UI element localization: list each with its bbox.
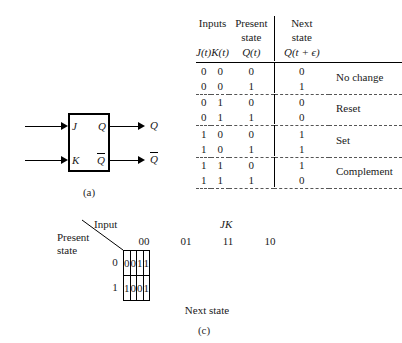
cell-j: 0 [196, 78, 211, 93]
cell-next-q: 1 [274, 78, 329, 93]
kmap-column-header-01: 01 [165, 235, 207, 247]
table-column-header-row: J(t) K(t) Q(t) Q(t + ϵ) [196, 44, 402, 61]
panel-b-truth-table: Inputs Present Next state state J(t) K(t… [196, 16, 402, 189]
caption-c: (c) [175, 324, 233, 336]
group-note: No change [329, 63, 402, 93]
cell-q: 1 [229, 172, 274, 187]
kmap-cell-0-10: 1 [143, 251, 150, 276]
cell-j: 1 [196, 172, 211, 187]
external-label-qbar: Q [150, 154, 158, 165]
kmap-present-state-label: Present state [57, 231, 105, 256]
cell-k: 1 [211, 109, 229, 124]
cell-next-q: 0 [274, 94, 329, 109]
pin-label-qbar-text: Q [97, 155, 105, 166]
pin-label-q: Q [98, 121, 106, 132]
table-row: 1 1 0 1 Complement [196, 157, 402, 172]
kmap-next-state-label: Next state [123, 304, 291, 316]
kmap-column-header-00: 00 [123, 235, 165, 247]
table-row: 1 0 0 1 Set [196, 126, 402, 141]
header-note-spacer-2 [329, 30, 402, 44]
kmap-present-state-line2: state [57, 244, 105, 257]
output-arrow-qbar-icon [138, 156, 145, 164]
pin-label-k: K [72, 155, 79, 166]
cell-k: 1 [211, 172, 229, 187]
header-next-state-line1: Next [274, 16, 329, 30]
header-next-state-line2: state [274, 30, 329, 44]
kmap-row-1: 1 0 0 1 [124, 276, 150, 301]
cell-k: 0 [211, 141, 229, 156]
table-row: 0 0 0 0 No change [196, 63, 402, 78]
cell-next-q: 0 [274, 172, 329, 187]
figure-jk-flip-flop: J K Q Q Q Q (a) Inputs Present Next stat… [0, 0, 402, 343]
cell-next-q: 0 [274, 63, 329, 78]
kmap-present-state-line1: Present [57, 231, 105, 244]
cell-q: 1 [229, 109, 274, 124]
table-header-group-row-2: state state [196, 30, 402, 44]
kmap-column-header-11: 11 [207, 235, 249, 247]
cell-q: 1 [229, 141, 274, 156]
cell-j: 1 [196, 141, 211, 156]
pin-label-qbar: Q [97, 155, 105, 166]
header-inputs: Inputs [196, 16, 229, 30]
cell-next-q: 1 [274, 157, 329, 172]
cell-k: 1 [211, 94, 229, 109]
cell-j: 0 [196, 94, 211, 109]
cell-next-q: 0 [274, 109, 329, 124]
input-wire-j [25, 126, 63, 127]
cell-j: 0 [196, 109, 211, 124]
cell-k: 0 [211, 126, 229, 141]
kmap-row-0: 0 0 1 1 [124, 251, 150, 276]
kmap-cell-1-10: 1 [143, 276, 150, 301]
cell-next-q: 1 [274, 141, 329, 156]
cell-q: 1 [229, 78, 274, 93]
kmap-grid: 0 0 1 1 1 0 0 1 [123, 250, 150, 301]
column-header-q: Q(t) [229, 44, 274, 61]
caption-a: (a) [60, 186, 118, 198]
column-header-next-q: Q(t + ϵ) [274, 44, 329, 61]
group-note: Reset [329, 94, 402, 124]
cell-q: 0 [229, 94, 274, 109]
cell-q: 0 [229, 157, 274, 172]
cell-j: 0 [196, 63, 211, 78]
kmap-column-header-10: 10 [249, 235, 291, 247]
group-note: Set [329, 126, 402, 156]
table-header-group-row: Inputs Present Next [196, 16, 402, 30]
cropped-caption-remnant [8, 0, 394, 3]
cell-k: 0 [211, 78, 229, 93]
kmap-jk-label: JK [220, 218, 232, 230]
cell-next-q: 1 [274, 126, 329, 141]
kmap-input-label: Input [94, 218, 117, 230]
cell-j: 1 [196, 157, 211, 172]
kmap-row-label-1: 1 [110, 281, 120, 293]
output-wire-qbar [110, 160, 140, 161]
cell-k: 0 [211, 63, 229, 78]
output-wire-q [110, 126, 140, 127]
header-note-spacer [329, 16, 402, 30]
column-header-j: J(t) [196, 44, 211, 61]
header-present-state-line1: Present [229, 16, 274, 30]
cell-q: 0 [229, 63, 274, 78]
table-bottom-rule-line [196, 187, 329, 189]
external-label-qbar-text: Q [150, 154, 158, 165]
input-arrow-k-icon [61, 156, 68, 164]
input-arrow-j-icon [61, 122, 68, 130]
kmap-row-label-0: 0 [110, 256, 120, 268]
header-inputs-spacer [196, 30, 229, 44]
table-bottom-rule-gap [329, 187, 402, 189]
table-row: 0 1 0 0 Reset [196, 94, 402, 109]
header-present-state-line2: state [229, 30, 274, 44]
column-header-note [329, 44, 402, 61]
truth-table: Inputs Present Next state state J(t) K(t… [196, 16, 402, 189]
cell-k: 1 [211, 157, 229, 172]
column-header-k: K(t) [211, 44, 229, 61]
group-note: Complement [329, 157, 402, 187]
table-bottom-rule [196, 187, 402, 189]
external-label-q: Q [150, 120, 158, 131]
output-arrow-q-icon [138, 122, 145, 130]
pin-label-j: J [72, 121, 77, 132]
input-wire-k [25, 160, 63, 161]
cell-q: 0 [229, 126, 274, 141]
cell-j: 1 [196, 126, 211, 141]
